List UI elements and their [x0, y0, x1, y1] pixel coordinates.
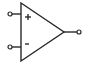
op-amp-diagram	[0, 0, 86, 65]
plus-sign-icon	[25, 14, 31, 20]
op-amp-symbol	[0, 0, 86, 65]
inverting-input-terminal	[8, 45, 21, 49]
op-amp-triangle	[21, 3, 64, 61]
output-terminal	[64, 30, 81, 34]
non-inverting-input-terminal	[8, 12, 21, 16]
